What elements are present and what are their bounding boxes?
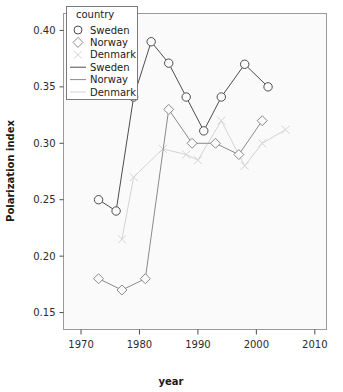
x-tick-label: 2000	[244, 339, 269, 350]
x-tick-label: 1970	[68, 339, 93, 350]
legend-item-label: Norway	[90, 37, 128, 48]
x-axis-title: year	[159, 376, 184, 387]
legend-item-label: Norway	[90, 74, 128, 85]
y-axis-title: Polarization index	[5, 119, 16, 221]
polarization-index-chart: 0.150.200.250.300.350.40 197019801990200…	[0, 0, 343, 392]
x-tick-label: 2010	[302, 339, 327, 350]
data-point-marker	[165, 59, 173, 67]
y-tick-label: 0.15	[33, 307, 55, 318]
data-point-marker	[217, 93, 225, 101]
y-tick-label: 0.25	[33, 194, 55, 205]
legend-item-label: Sweden	[90, 62, 130, 73]
legend-circle-icon	[74, 26, 82, 34]
data-point-marker	[147, 38, 155, 46]
x-axis: 19701980199020002010	[68, 330, 327, 350]
chart-canvas: 0.150.200.250.300.350.40 197019801990200…	[0, 0, 343, 392]
legend-item-label: Denmark	[90, 49, 136, 60]
chart-legend: country SwedenNorwayDenmarkSwedenNorwayD…	[67, 7, 138, 100]
data-point-marker	[200, 127, 208, 135]
legend-item-label: Denmark	[90, 87, 136, 98]
x-tick-label: 1980	[127, 339, 152, 350]
data-point-marker	[240, 60, 248, 68]
legend-item-label: Sweden	[90, 25, 130, 36]
y-axis: 0.150.200.250.300.350.40	[33, 25, 63, 318]
data-point-marker	[182, 93, 190, 101]
x-tick-label: 1990	[185, 339, 210, 350]
data-point-marker	[264, 83, 272, 91]
legend-title: country	[76, 9, 114, 20]
data-point-marker	[94, 196, 102, 204]
y-tick-label: 0.30	[33, 138, 55, 149]
y-tick-label: 0.35	[33, 81, 55, 92]
y-tick-label: 0.40	[33, 25, 55, 36]
data-point-marker	[112, 207, 120, 215]
y-tick-label: 0.20	[33, 251, 55, 262]
